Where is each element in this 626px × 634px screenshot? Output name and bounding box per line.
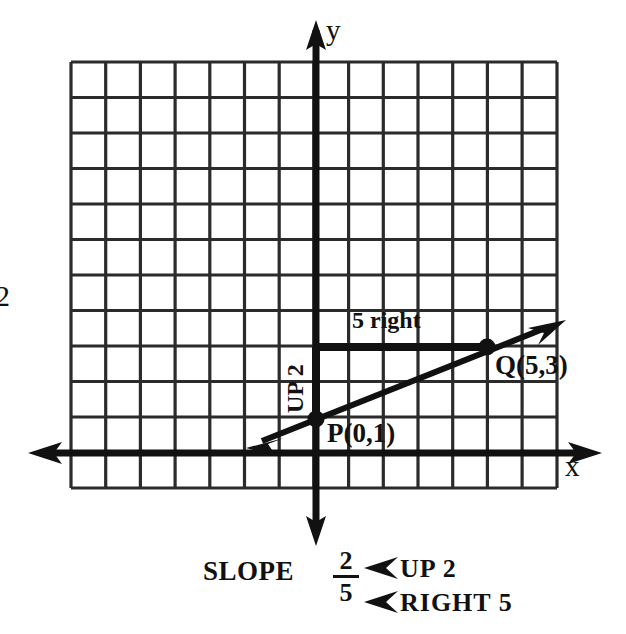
slope-denominator: 5 xyxy=(333,579,359,606)
slope-fraction: 2 5 xyxy=(333,547,359,607)
slope-numerator: 2 xyxy=(333,547,359,574)
slope-callout-arrows xyxy=(364,557,398,613)
point-q-label: Q(5,3) xyxy=(495,352,568,379)
callout-arrow-right-5 xyxy=(364,591,398,613)
point-q-dot xyxy=(479,339,496,356)
y-axis-label: y xyxy=(326,16,341,45)
run-label: 5 right xyxy=(352,308,421,332)
rise-label: UP 2 xyxy=(283,364,307,413)
x-axis-label: x xyxy=(565,452,580,481)
callout-up-label: UP 2 xyxy=(400,556,457,582)
callout-arrow-up-2 xyxy=(364,557,398,579)
point-p-dot xyxy=(308,411,325,428)
callout-right-label: RIGHT 5 xyxy=(400,590,513,616)
slope-word: SLOPE xyxy=(203,558,294,585)
slope-diagram xyxy=(0,0,626,634)
left-edge-partial-text: 2 xyxy=(0,281,10,311)
point-p-label: P(0,1) xyxy=(327,420,395,447)
